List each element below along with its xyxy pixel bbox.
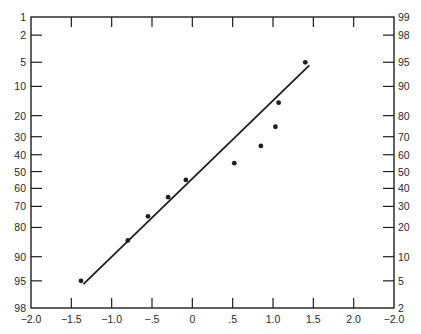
fitted-line bbox=[83, 65, 309, 284]
y-right-tick-label: 10 bbox=[398, 251, 410, 263]
y-left-tick-label: 50 bbox=[14, 166, 26, 178]
data-point bbox=[276, 100, 281, 105]
data-series bbox=[79, 60, 310, 284]
y-right-tick-label: 95 bbox=[398, 56, 410, 68]
y-right-tick-label: 50 bbox=[398, 166, 410, 178]
y-right-tick-label: 30 bbox=[398, 200, 410, 212]
y-right-tick-label: 5 bbox=[398, 275, 404, 287]
y-axis-left: 1251020304050607080909598 bbox=[14, 11, 42, 314]
y-left-tick-label: 2 bbox=[20, 29, 26, 41]
x-axis: −2.0−1.5−1.0−.50.51.01.52.0−2.0 bbox=[21, 17, 405, 325]
y-right-tick-label: 98 bbox=[398, 29, 410, 41]
data-point bbox=[183, 178, 188, 183]
data-point bbox=[146, 214, 151, 219]
y-left-tick-label: 30 bbox=[14, 131, 26, 143]
y-right-tick-label: 2 bbox=[398, 302, 404, 314]
y-axis-right: 99989590807060504030201052 bbox=[383, 11, 410, 314]
x-tick-label: .5 bbox=[228, 313, 237, 325]
y-left-tick-label: 70 bbox=[14, 200, 26, 212]
x-tick-label: −2.0 bbox=[384, 313, 405, 325]
y-left-tick-label: 20 bbox=[14, 110, 26, 122]
data-point bbox=[232, 161, 237, 166]
plot-frame bbox=[31, 17, 394, 308]
y-left-tick-label: 98 bbox=[14, 302, 26, 314]
x-tick-label: −1.0 bbox=[101, 313, 122, 325]
y-left-tick-label: 80 bbox=[14, 221, 26, 233]
probability-plot: −2.0−1.5−1.0−.50.51.01.52.0−2.0 12510203… bbox=[0, 0, 421, 334]
y-left-tick-label: 1 bbox=[20, 11, 26, 23]
y-right-tick-label: 90 bbox=[398, 80, 410, 92]
y-right-tick-label: 60 bbox=[398, 149, 410, 161]
y-right-tick-label: 80 bbox=[398, 110, 410, 122]
y-right-tick-label: 70 bbox=[398, 131, 410, 143]
y-left-tick-label: 5 bbox=[20, 56, 26, 68]
x-tick-label: −1.5 bbox=[61, 313, 82, 325]
y-left-tick-label: 95 bbox=[14, 275, 26, 287]
data-point bbox=[273, 124, 278, 129]
data-point bbox=[79, 278, 84, 283]
y-right-tick-label: 99 bbox=[398, 11, 410, 23]
x-tick-label: −.5 bbox=[145, 313, 160, 325]
y-left-tick-label: 10 bbox=[14, 80, 26, 92]
y-left-tick-label: 60 bbox=[14, 182, 26, 194]
y-right-tick-label: 40 bbox=[398, 182, 410, 194]
x-tick-label: 1.0 bbox=[266, 313, 281, 325]
y-left-tick-label: 40 bbox=[14, 149, 26, 161]
x-tick-label: 1.5 bbox=[306, 313, 321, 325]
x-tick-label: 0 bbox=[189, 313, 195, 325]
data-point bbox=[166, 195, 171, 200]
data-point bbox=[303, 60, 308, 65]
data-point bbox=[259, 144, 264, 149]
x-tick-label: 2.0 bbox=[346, 313, 361, 325]
y-left-tick-label: 90 bbox=[14, 251, 26, 263]
x-tick-label: −2.0 bbox=[21, 313, 42, 325]
y-right-tick-label: 20 bbox=[398, 221, 410, 233]
